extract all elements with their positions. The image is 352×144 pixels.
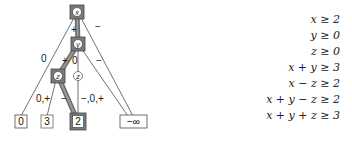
edge-label-x-0: 0 bbox=[41, 53, 47, 64]
leaf-3: 3 bbox=[41, 115, 53, 128]
edge-label-y-zmid: 0 bbox=[72, 55, 78, 66]
edge-y-neginf bbox=[81, 48, 128, 116]
constraint-list: x ≥ 2 y ≥ 0 z ≥ 0 x + y ≥ 3 x − z ≥ 2 x … bbox=[266, 12, 340, 124]
constraint: z ≥ 0 bbox=[266, 44, 340, 60]
edge-label-y-neginf: − bbox=[96, 55, 102, 66]
edge-label-zmid-2: −,0,+ bbox=[81, 93, 104, 104]
edge-label-zleft-3: 0,+ bbox=[36, 93, 50, 104]
node-x-label: x bbox=[74, 9, 79, 16]
leaf-0: 0 bbox=[15, 115, 27, 128]
edge-label-y-zleft: + bbox=[62, 55, 68, 66]
edge-label-x-y: + bbox=[71, 24, 77, 35]
leaf-neg-inf: −∞ bbox=[120, 115, 147, 128]
leaf-2: 2 bbox=[70, 113, 86, 130]
node-x: x bbox=[70, 5, 84, 19]
node-z-mid-label: z bbox=[75, 73, 80, 80]
node-z-left: z bbox=[51, 69, 65, 83]
edge-label-x-neginf: − bbox=[95, 21, 101, 32]
decision-tree: x y z z 0 3 2 −∞ 0 + − + 0 − 0,+ − bbox=[0, 0, 176, 144]
node-y: y bbox=[71, 37, 85, 51]
svg-text:2: 2 bbox=[75, 116, 81, 127]
constraint: x + y + z ≥ 3 bbox=[266, 108, 340, 124]
node-y-label: y bbox=[75, 41, 80, 49]
constraint: x ≥ 2 bbox=[266, 12, 340, 28]
svg-text:0: 0 bbox=[18, 116, 24, 127]
node-z-mid: z bbox=[74, 72, 83, 81]
constraint: x − z ≥ 2 bbox=[266, 76, 340, 92]
svg-text:3: 3 bbox=[44, 116, 50, 127]
constraint: x + y ≥ 3 bbox=[266, 60, 340, 76]
node-z-left-label: z bbox=[55, 73, 60, 80]
edge-labels: 0 + − + 0 − 0,+ − −,0,+ bbox=[36, 21, 104, 104]
constraint: y ≥ 0 bbox=[266, 28, 340, 44]
constraint: x + y − z ≥ 2 bbox=[266, 92, 340, 108]
svg-text:−∞: −∞ bbox=[127, 116, 140, 127]
edge-label-zleft-2: − bbox=[61, 93, 67, 104]
